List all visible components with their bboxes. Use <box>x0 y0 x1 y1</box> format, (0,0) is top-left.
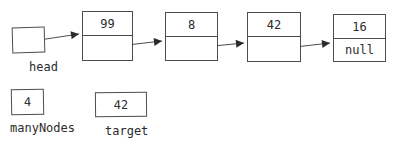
node-value: 99 <box>83 12 132 36</box>
manyNodes-variable-box: 4 <box>11 89 44 116</box>
list-node: 42 <box>247 12 301 62</box>
manyNodes-label: manyNodes <box>10 121 75 135</box>
node-value: 8 <box>166 13 217 37</box>
node-next-pointer <box>248 37 300 61</box>
list-node: 16 null <box>333 14 386 62</box>
head-variable-box <box>12 27 46 54</box>
target-label: target <box>105 124 148 138</box>
manyNodes-value: 4 <box>24 95 31 109</box>
list-node: 99 <box>82 11 133 61</box>
linked-list-diagram: head 99 8 42 16 null 4 manyNodes 42 targ… <box>0 0 399 148</box>
target-value: 42 <box>114 97 129 111</box>
node-next-pointer <box>166 37 217 60</box>
node-value: 42 <box>248 13 300 37</box>
node-next-pointer <box>83 36 132 60</box>
node-next-null: null <box>334 39 385 61</box>
target-variable-box: 42 <box>95 92 147 118</box>
list-node: 8 <box>165 12 218 61</box>
node-value: 16 <box>334 15 385 39</box>
head-label: head <box>29 60 58 74</box>
